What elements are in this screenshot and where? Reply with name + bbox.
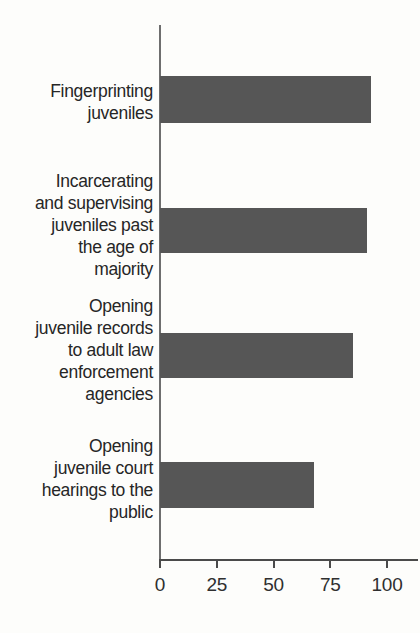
bar bbox=[160, 462, 314, 508]
category-label: Incarcerating and supervising juveniles … bbox=[0, 170, 153, 280]
plot-area: 0255075100 Fingerprinting juvenilesIncar… bbox=[0, 0, 420, 633]
bar-chart: 0255075100 Fingerprinting juvenilesIncar… bbox=[0, 0, 420, 633]
x-axis-line bbox=[159, 559, 418, 561]
x-axis-tick-label: 100 bbox=[357, 574, 417, 596]
category-label: Opening juvenile records to adult law en… bbox=[0, 295, 153, 405]
x-axis-tick bbox=[273, 559, 275, 568]
category-label: Opening juvenile court hearings to the p… bbox=[0, 435, 153, 523]
x-axis-tick-label: 50 bbox=[244, 574, 304, 596]
bar bbox=[160, 208, 367, 253]
x-axis-tick-label: 0 bbox=[130, 574, 190, 596]
x-axis-tick bbox=[329, 559, 331, 568]
x-axis-tick bbox=[386, 559, 388, 568]
x-axis-tick bbox=[216, 559, 218, 568]
category-label: Fingerprinting juveniles bbox=[0, 80, 153, 124]
bar bbox=[160, 333, 353, 378]
x-axis-tick-label: 75 bbox=[300, 574, 360, 596]
x-axis-tick-label: 25 bbox=[187, 574, 247, 596]
bar bbox=[160, 76, 371, 123]
x-axis-tick bbox=[159, 559, 161, 568]
